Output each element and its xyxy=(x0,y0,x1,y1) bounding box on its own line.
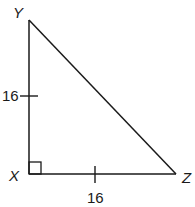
length-label-xy: 16 xyxy=(2,87,19,104)
vertex-label-y: Y xyxy=(13,4,24,21)
length-label-xz: 16 xyxy=(87,189,104,206)
vertex-label-x: X xyxy=(8,167,20,184)
side-yz-hypotenuse xyxy=(29,20,176,174)
triangle-diagram: Y X Z 16 16 xyxy=(0,0,195,207)
right-angle-marker xyxy=(29,162,41,174)
vertex-label-z: Z xyxy=(181,169,192,186)
